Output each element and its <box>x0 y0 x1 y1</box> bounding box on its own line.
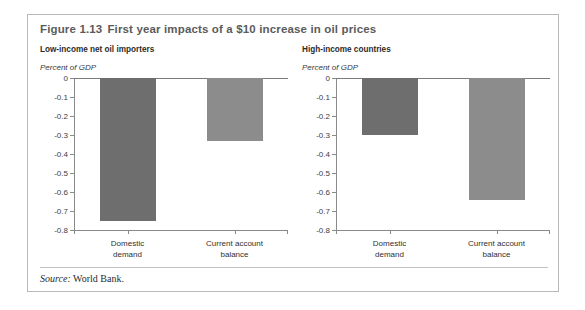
y-axis-tick-label: -0.5 <box>54 169 68 178</box>
y-axis-tick-label: -0.8 <box>54 226 68 235</box>
y-axis-line <box>336 78 337 230</box>
y-axis-tick <box>332 135 336 136</box>
source-text: World Bank. <box>73 273 124 284</box>
panel-unit-high-income: Percent of GDP <box>302 63 358 72</box>
x-axis-category-line: balance <box>206 249 263 260</box>
y-axis-tick <box>332 192 336 193</box>
y-axis-line <box>74 78 75 230</box>
y-axis-tick <box>70 116 74 117</box>
panel-unit-low-income: Percent of GDP <box>40 63 96 72</box>
y-axis-tick-label: -0.8 <box>316 226 330 235</box>
bar-current-account-balance <box>207 78 263 141</box>
chart-panel-low-income: Low-income net oil importers Percent of … <box>38 45 296 263</box>
x-axis-line <box>336 230 550 231</box>
x-axis-tick <box>235 230 236 234</box>
source-note: Source: World Bank. <box>40 273 124 284</box>
y-axis-tick-label: -0.7 <box>316 207 330 216</box>
bar-domestic-demand <box>362 78 418 135</box>
x-axis-category-line: Domestic <box>111 238 144 249</box>
y-axis-tick-label: -0.3 <box>54 131 68 140</box>
y-axis-tick <box>70 192 74 193</box>
y-axis-tick-label: -0.4 <box>54 150 68 159</box>
figure-container: Figure 1.13First year impacts of a $10 i… <box>27 14 559 292</box>
y-axis-tick <box>70 78 74 79</box>
footer-divider <box>40 267 548 268</box>
x-axis-category-line: balance <box>468 249 525 260</box>
x-axis-category-line: demand <box>111 249 144 260</box>
y-axis-tick <box>70 173 74 174</box>
x-axis-tick <box>497 230 498 234</box>
y-axis-tick <box>332 154 336 155</box>
x-axis-category-label: Current accountbalance <box>468 238 525 260</box>
x-axis-end-tick <box>549 230 550 234</box>
chart-panels: Low-income net oil importers Percent of … <box>28 45 558 263</box>
figure-title: Figure 1.13First year impacts of a $10 i… <box>40 23 376 35</box>
x-axis-category-label: Domesticdemand <box>373 238 406 260</box>
x-axis-category-line: demand <box>373 249 406 260</box>
y-axis-tick-label: -0.4 <box>316 150 330 159</box>
y-axis-tick-label: -0.6 <box>316 188 330 197</box>
bar-current-account-balance <box>469 78 525 200</box>
x-axis-end-tick <box>287 230 288 234</box>
x-axis-tick <box>128 230 129 234</box>
x-axis-end-tick <box>74 230 75 234</box>
y-axis-tick-label: -0.1 <box>316 93 330 102</box>
y-axis-tick <box>332 78 336 79</box>
source-label: Source: <box>40 273 71 284</box>
panel-heading-high-income: High-income countries <box>302 45 391 54</box>
y-axis-tick <box>70 154 74 155</box>
y-axis-tick <box>70 211 74 212</box>
y-axis-tick-label: -0.2 <box>54 112 68 121</box>
x-axis-category-label: Domesticdemand <box>111 238 144 260</box>
y-axis-tick <box>70 97 74 98</box>
figure-number: Figure 1.13 <box>40 23 102 35</box>
y-axis-tick <box>332 211 336 212</box>
x-axis-tick <box>390 230 391 234</box>
x-axis-category-line: Current account <box>468 238 525 249</box>
y-axis-tick-label: -0.7 <box>54 207 68 216</box>
x-axis-category-label: Current accountbalance <box>206 238 263 260</box>
x-axis-line <box>74 230 288 231</box>
figure-title-text: First year impacts of a $10 increase in … <box>107 23 376 35</box>
y-axis-tick <box>70 135 74 136</box>
panel-heading-low-income: Low-income net oil importers <box>40 45 154 54</box>
bar-domestic-demand <box>100 78 156 221</box>
y-axis-tick-label: 0 <box>64 74 68 83</box>
y-axis-tick <box>332 173 336 174</box>
chart-panel-high-income: High-income countries Percent of GDP 0-0… <box>300 45 558 263</box>
x-axis-category-line: Current account <box>206 238 263 249</box>
y-axis-tick <box>332 97 336 98</box>
y-axis-tick-label: -0.2 <box>316 112 330 121</box>
y-axis-tick <box>332 116 336 117</box>
x-axis-category-line: Domestic <box>373 238 406 249</box>
plot-area-high-income: 0-0.1-0.2-0.3-0.4-0.5-0.6-0.7-0.8 Domest… <box>336 78 550 230</box>
x-axis-end-tick <box>336 230 337 234</box>
y-axis-tick-label: -0.1 <box>54 93 68 102</box>
y-axis-tick-label: -0.3 <box>316 131 330 140</box>
plot-area-low-income: 0-0.1-0.2-0.3-0.4-0.5-0.6-0.7-0.8 Domest… <box>74 78 288 230</box>
y-axis-tick-label: 0 <box>326 74 330 83</box>
y-axis-tick-label: -0.6 <box>54 188 68 197</box>
y-axis-tick-label: -0.5 <box>316 169 330 178</box>
